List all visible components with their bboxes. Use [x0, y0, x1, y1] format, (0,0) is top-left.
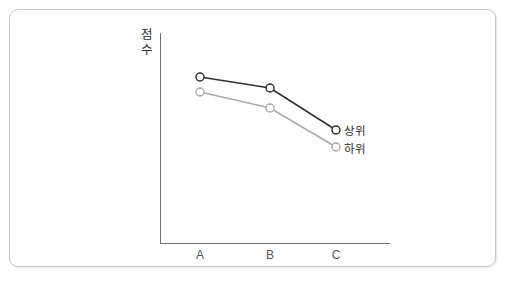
y-axis-title-line-2: 수 [138, 43, 156, 58]
x-tick-label-b: B [266, 248, 274, 262]
y-axis-title-line-1: 점 [138, 28, 156, 43]
y-axis-title: 점 수 [138, 28, 156, 58]
series-lower-point-a [196, 88, 204, 96]
series-upper-point-a [196, 73, 204, 81]
axis-group [160, 33, 390, 244]
series-lower-line [200, 92, 336, 147]
series-upper-point-b [266, 84, 274, 92]
x-tick-label-a: A [196, 248, 204, 262]
series-lower-point-b [266, 104, 274, 112]
series-upper-group [196, 73, 340, 134]
series-labels-group: 상위 하위 [344, 125, 366, 155]
line-chart-svg: A B C 상위 하위 [0, 0, 515, 283]
x-tick-labels-group: A B C [196, 248, 341, 262]
series-lower-point-c [332, 143, 340, 151]
series-label-lower: 하위 [344, 142, 366, 155]
series-upper-point-c [332, 126, 340, 134]
x-tick-label-c: C [332, 248, 341, 262]
chart-plot-area: A B C 상위 하위 [0, 0, 515, 283]
figure-root: A B C 상위 하위 [0, 0, 515, 283]
series-label-upper: 상위 [344, 125, 366, 137]
